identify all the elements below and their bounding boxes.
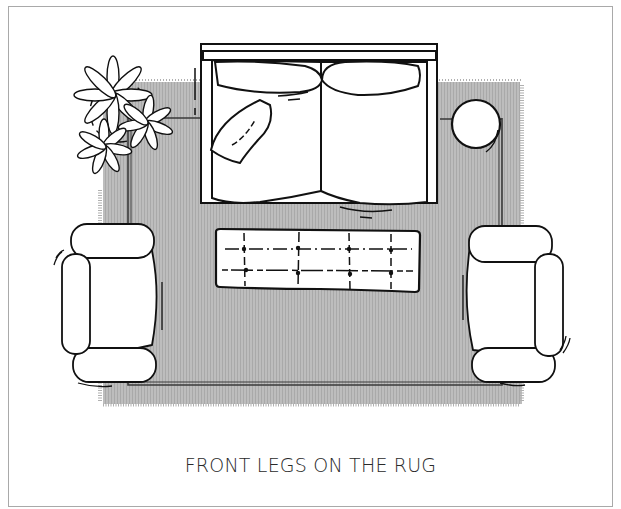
sofa-back xyxy=(203,51,436,60)
sofa-cushion-right xyxy=(322,62,420,96)
armchair-left-back xyxy=(62,254,90,354)
sofa xyxy=(195,44,437,218)
armchair-right-back xyxy=(535,254,563,356)
side-table-top xyxy=(452,100,500,148)
armchair-left xyxy=(54,224,162,387)
armchair-left-arm-bottom xyxy=(73,348,156,382)
sofa-cushion-left xyxy=(215,62,322,93)
ottoman-body xyxy=(216,229,420,292)
armchair-left-arm-top xyxy=(71,224,154,258)
ottoman xyxy=(216,229,420,292)
room-layout-diagram xyxy=(0,0,621,509)
diagram-caption: FRONT LEGS ON THE RUG xyxy=(0,454,621,476)
armchair-right xyxy=(463,226,570,386)
